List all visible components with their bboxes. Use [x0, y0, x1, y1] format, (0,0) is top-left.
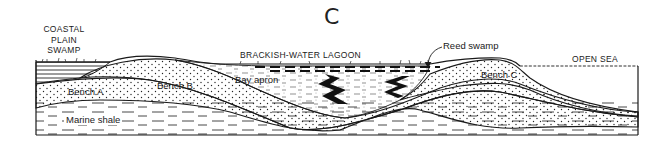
reed-swamp-arrow [425, 47, 442, 67]
bay-apron-label: Bay apron [235, 75, 278, 85]
bench-a-label: Bench A [68, 87, 103, 97]
brackish-water-lagoon-label: BRACKISH-WATER LAGOON [240, 51, 361, 60]
marine-shale-label: Marine shale [64, 115, 122, 125]
reed-swamp-label: Reed swamp [443, 41, 498, 51]
coastal-plain-swamp-line-1: COASTAL [38, 25, 90, 34]
coastal-plain-swamp-line-3: SWAMP [38, 46, 90, 55]
panel-label: C [324, 6, 339, 28]
coastal-plain-swamp-label: COASTAL PLAIN SWAMP [38, 25, 90, 55]
open-sea-label: OPEN SEA [572, 55, 618, 64]
bench-b-label: Bench B [157, 81, 193, 91]
coastal-plain-swamp-line-2: PLAIN [38, 36, 90, 45]
bench-c-label: Bench C [481, 70, 517, 80]
